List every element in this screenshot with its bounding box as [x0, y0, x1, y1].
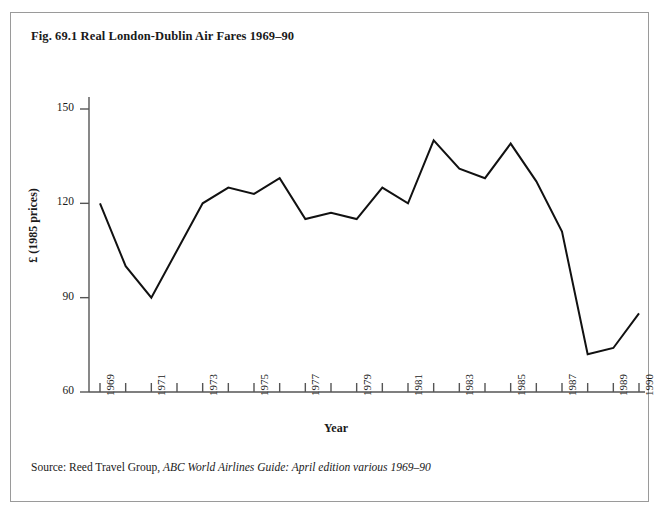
x-axis-tick-label: 1989	[618, 374, 629, 396]
x-axis-tick-label: 1979	[362, 374, 373, 396]
data-series-line	[100, 140, 639, 354]
source-prefix: Source: Reed Travel Group,	[31, 461, 163, 473]
y-axis-ticks	[80, 109, 89, 392]
y-axis-tick-label: 150	[34, 102, 74, 114]
x-axis-tick-label: 1973	[208, 374, 219, 396]
chart-axes	[89, 97, 645, 392]
y-axis-tick-label: 60	[34, 385, 74, 397]
x-axis-title: Year	[266, 421, 406, 436]
y-axis-title: £ (1985 prices)	[26, 166, 41, 286]
x-axis-tick-label: 1990	[644, 374, 655, 396]
y-axis-tick-label: 90	[34, 291, 74, 303]
source-citation: ABC World Airlines Guide: April edition …	[163, 461, 431, 473]
x-axis-tick-label: 1971	[156, 374, 167, 396]
x-axis-tick-label: 1985	[516, 374, 527, 396]
figure-frame: Fig. 69.1 Real London-Dublin Air Fares 1…	[10, 12, 649, 502]
x-axis-tick-label: 1987	[567, 374, 578, 396]
x-axis-tick-label: 1969	[105, 374, 116, 396]
x-axis-tick-label: 1977	[310, 374, 321, 396]
x-axis-tick-label: 1975	[259, 374, 270, 396]
chart-plot-area: 6090120150 19691971197319751977197919811…	[11, 13, 650, 503]
x-axis-tick-label: 1981	[413, 374, 424, 396]
figure-source: Source: Reed Travel Group, ABC World Air…	[31, 461, 431, 473]
x-axis-tick-label: 1983	[464, 374, 475, 396]
